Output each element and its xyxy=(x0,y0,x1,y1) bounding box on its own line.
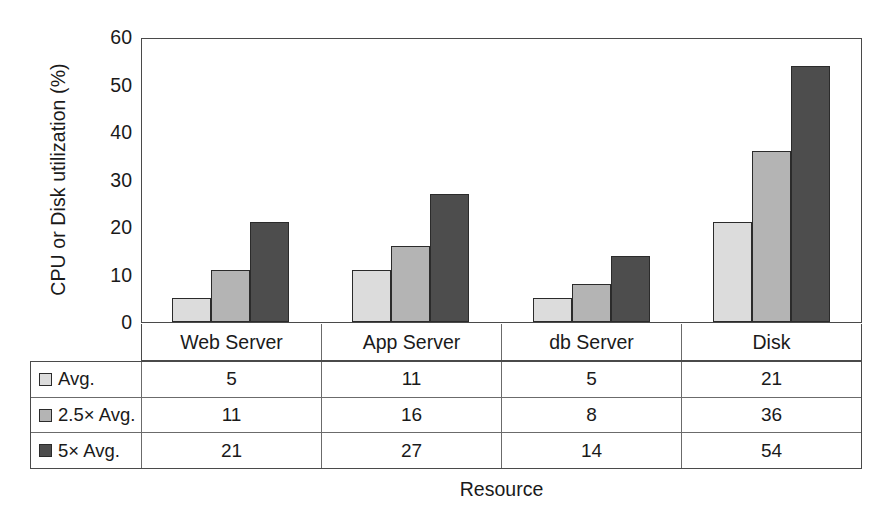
bar xyxy=(430,194,469,322)
table-cell-value: 36 xyxy=(682,398,861,433)
y-axis-tick-label: 0 xyxy=(84,313,132,333)
x-axis-title: Resource xyxy=(141,478,862,501)
bar xyxy=(713,222,752,322)
x-axis-category-label: db Server xyxy=(502,324,682,360)
table-cell-value: 21 xyxy=(682,362,861,397)
bar xyxy=(611,256,650,323)
bar-group xyxy=(683,39,863,322)
table-cell-value: 8 xyxy=(502,398,682,433)
legend-swatch-avg-icon xyxy=(39,373,52,386)
x-axis-category-label: Disk xyxy=(682,324,861,360)
table-cell-value: 5 xyxy=(502,362,682,397)
table-row: 5× Avg.21271454 xyxy=(31,433,861,468)
bar xyxy=(250,222,289,322)
x-axis-category-label: App Server xyxy=(322,324,502,360)
bar xyxy=(211,270,250,322)
table-cell-value: 14 xyxy=(502,433,682,468)
table-cell-value: 16 xyxy=(322,398,502,433)
y-axis-tick-label: 60 xyxy=(84,28,132,48)
legend-cell: Avg. xyxy=(31,362,142,397)
plot-area xyxy=(141,38,862,323)
data-table: Avg.5115212.5× Avg.11168365× Avg.2127145… xyxy=(30,361,862,469)
legend-cell: 2.5× Avg. xyxy=(31,398,142,433)
table-row: Avg.511521 xyxy=(31,362,861,398)
table-cell-value: 21 xyxy=(142,433,322,468)
bar xyxy=(752,151,791,322)
bar xyxy=(391,246,430,322)
bar xyxy=(172,298,211,322)
table-cell-value: 11 xyxy=(142,398,322,433)
legend-label: 5× Avg. xyxy=(58,440,120,462)
bar-group xyxy=(142,39,322,322)
bar xyxy=(791,66,830,323)
table-cell-value: 11 xyxy=(322,362,502,397)
y-axis-title: CPU or Disk utilization (%) xyxy=(47,25,70,335)
table-row: 2.5× Avg.1116836 xyxy=(31,398,861,434)
table-cell-value: 54 xyxy=(682,433,861,468)
x-axis-category-row: Web ServerApp Serverdb ServerDisk xyxy=(141,324,862,361)
legend-label: Avg. xyxy=(58,368,95,390)
y-axis-tick-labels: 0102030405060 xyxy=(84,38,132,323)
bar xyxy=(572,284,611,322)
table-cell-value: 27 xyxy=(322,433,502,468)
bar-chart-figure: CPU or Disk utilization (%) 010203040506… xyxy=(0,0,893,522)
y-axis-tick-label: 30 xyxy=(84,171,132,191)
legend-swatch-5x-avg-icon xyxy=(39,444,52,457)
y-axis-tick-label: 10 xyxy=(84,266,132,286)
legend-swatch-2-5x-avg-icon xyxy=(39,409,52,422)
table-cell-value: 5 xyxy=(142,362,322,397)
legend-label: 2.5× Avg. xyxy=(58,404,135,426)
y-axis-tick-label: 50 xyxy=(84,76,132,96)
bar xyxy=(533,298,572,322)
bar xyxy=(352,270,391,322)
y-axis-tick-label: 40 xyxy=(84,123,132,143)
x-axis-category-label: Web Server xyxy=(142,324,322,360)
bar-group xyxy=(322,39,502,322)
bar-group xyxy=(503,39,683,322)
y-axis-tick-label: 20 xyxy=(84,218,132,238)
bars-container xyxy=(142,39,861,322)
legend-cell: 5× Avg. xyxy=(31,433,142,468)
